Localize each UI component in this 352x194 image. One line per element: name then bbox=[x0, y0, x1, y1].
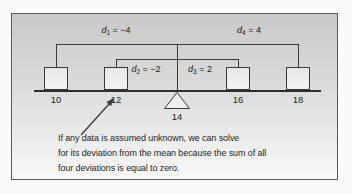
inner-bracket-right-stub bbox=[238, 59, 239, 67]
deviation-d3-eq: = 2 bbox=[199, 64, 212, 74]
caption-text: If any data is assumed unknown, we can s… bbox=[58, 131, 266, 176]
caption-line-1: If any data is assumed unknown, we can s… bbox=[58, 131, 266, 146]
weight-box-18 bbox=[286, 67, 310, 90]
deviation-label-d4: d4 = 4 bbox=[237, 25, 261, 36]
weight-box-16 bbox=[226, 67, 250, 90]
inner-bracket-left-stub bbox=[116, 59, 117, 67]
value-label-16: 16 bbox=[233, 94, 244, 105]
deviation-d2-sub: 2 bbox=[136, 68, 140, 75]
inner-bracket-line bbox=[116, 59, 239, 60]
deviation-d1-sub: 1 bbox=[106, 29, 110, 36]
fulcrum-triangle-icon bbox=[163, 91, 191, 110]
fulcrum-triangle-shape bbox=[165, 93, 190, 109]
caption-line-2: for its deviation from the mean because … bbox=[58, 146, 266, 161]
outer-bracket-right-stub bbox=[298, 44, 299, 67]
value-label-18: 18 bbox=[293, 94, 304, 105]
center-axis-line bbox=[177, 44, 178, 90]
deviation-label-d1: d1 = −4 bbox=[101, 25, 130, 36]
page: { "colors": { "frame_border": "#5a5a5a",… bbox=[0, 0, 352, 194]
value-label-10: 10 bbox=[51, 94, 62, 105]
weight-box-10 bbox=[44, 67, 68, 90]
deviation-label-d3: d3 = 2 bbox=[188, 64, 212, 75]
diagram-frame: d1 = −4 d4 = 4 d2 = −2 d3 = 2 10 12 16 1… bbox=[11, 13, 338, 180]
weight-box-12 bbox=[104, 67, 128, 90]
deviation-d1-eq: = −4 bbox=[113, 25, 131, 35]
deviation-d4-sub: 4 bbox=[242, 29, 246, 36]
caption-line-3: four deviations is equal to zero. bbox=[58, 161, 266, 176]
deviation-d2-eq: = −2 bbox=[143, 64, 161, 74]
deviation-label-d2: d2 = −2 bbox=[131, 64, 160, 75]
deviation-d4-eq: = 4 bbox=[248, 25, 261, 35]
outer-bracket-left-stub bbox=[56, 44, 57, 67]
mean-label-14: 14 bbox=[172, 111, 183, 122]
deviation-d3-sub: 3 bbox=[193, 68, 197, 75]
